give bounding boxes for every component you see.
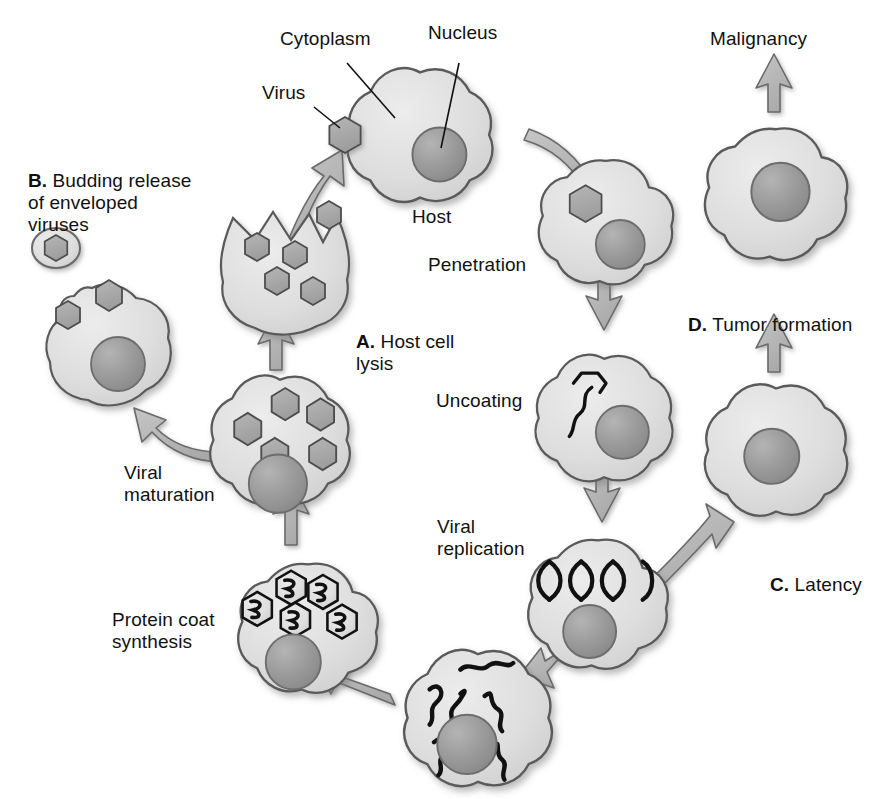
letter-b: B. (28, 170, 47, 191)
nucleus (563, 605, 616, 658)
budding-release-text: Budding release of enveloped viruses (28, 170, 191, 235)
label-viral-replication: Viral replication (437, 516, 525, 560)
letter-c: C. (770, 574, 789, 595)
cell-uncoating (536, 355, 673, 481)
latency-text: Latency (789, 574, 862, 595)
letter-d: D. (688, 314, 707, 335)
viral-replication-cycle-diagram: Cytoplasm Nucleus Virus Host Penetration… (0, 0, 893, 799)
cell-viral-maturation (210, 376, 350, 513)
nucleus (412, 127, 466, 181)
nucleus (744, 429, 799, 484)
nucleus (91, 337, 145, 391)
label-host: Host (412, 206, 451, 228)
nucleus (596, 406, 649, 459)
label-cytoplasm: Cytoplasm (280, 28, 371, 50)
label-latency: C. Latency (770, 552, 862, 596)
cell-protein-coat-synthesis (238, 564, 378, 693)
virus-hexagon (570, 185, 602, 222)
label-malignancy: Malignancy (710, 28, 807, 50)
cell-latency (705, 384, 847, 515)
cell-penetration (539, 160, 673, 284)
label-budding-release: B. Budding release of enveloped viruses (28, 148, 191, 236)
letter-a: A. (356, 331, 375, 352)
tumor-formation-text: Tumor formation (707, 314, 852, 335)
arrow-maturation-to-budding (134, 408, 222, 462)
cell-viral-replication (528, 540, 668, 669)
label-uncoating: Uncoating (436, 390, 522, 412)
label-virus: Virus (262, 82, 305, 104)
cell-host-lysis (221, 201, 349, 335)
nucleus (437, 715, 496, 774)
capsid-hexagon (45, 235, 68, 261)
label-tumor-formation: D. Tumor formation (688, 292, 852, 336)
nucleus (249, 455, 307, 513)
cell-tumor-formation (705, 128, 847, 260)
nucleus (266, 634, 321, 689)
label-nucleus: Nucleus (428, 22, 497, 44)
label-viral-maturation: Viral maturation (124, 462, 215, 506)
label-protein-coat-synthesis: Protein coat synthesis (112, 609, 215, 653)
cell-budding-release (46, 280, 170, 405)
arrow-tumor-to-malignancy (756, 54, 792, 112)
nucleus (751, 163, 809, 221)
label-penetration: Penetration (428, 254, 526, 276)
leader-virus (314, 107, 340, 128)
label-host-cell-lysis: A. Host cell lysis (356, 309, 454, 375)
nucleus (596, 220, 645, 269)
